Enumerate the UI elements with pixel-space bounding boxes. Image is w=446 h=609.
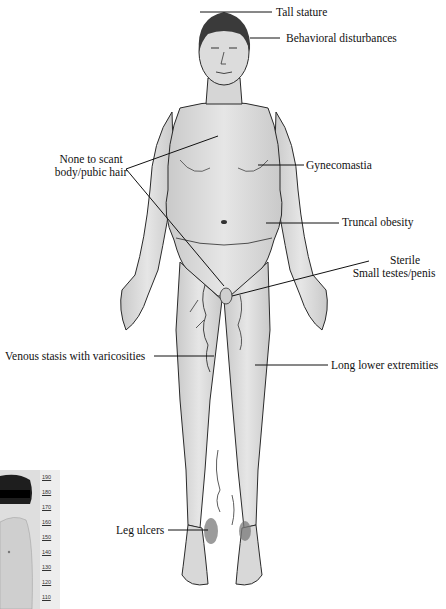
label-sterile: Sterile — [344, 254, 444, 267]
ruler-tick: 130 — [42, 564, 51, 570]
label-body-hair-line1: None to scant — [48, 153, 134, 166]
ulcer-left — [204, 518, 218, 544]
label-small-testes: Small testes/penis — [344, 267, 444, 280]
height-ruler: 190 180 170 160 150 140 130 120 110 — [40, 470, 60, 609]
label-truncal-obesity: Truncal obesity — [342, 216, 413, 229]
label-venous-stasis: Venous stasis with varicosities — [5, 350, 145, 363]
ruler-tick: 180 — [42, 489, 51, 495]
label-long-lower-extremities: Long lower extremities — [331, 359, 438, 372]
ruler-tick: 150 — [42, 534, 51, 540]
label-body-hair-line2: body/pubic hair — [48, 166, 134, 179]
label-tall-stature: Tall stature — [276, 6, 327, 19]
ruler-tick: 190 — [42, 474, 51, 480]
body-illustration — [0, 0, 446, 609]
ruler-tick: 120 — [42, 579, 51, 585]
ruler-tick: 170 — [42, 504, 51, 510]
ruler-tick: 160 — [42, 519, 51, 525]
label-leg-ulcers: Leg ulcers — [116, 524, 164, 537]
ulcer-right — [239, 521, 251, 541]
label-sterile-small-testes: Sterile Small testes/penis — [344, 254, 444, 280]
label-body-hair: None to scant body/pubic hair — [48, 153, 134, 179]
label-behavioral-disturbances: Behavioral disturbances — [286, 32, 397, 45]
ruler-tick: 140 — [42, 549, 51, 555]
ruler-tick: 110 — [42, 594, 51, 600]
label-gynecomastia: Gynecomastia — [306, 159, 372, 172]
